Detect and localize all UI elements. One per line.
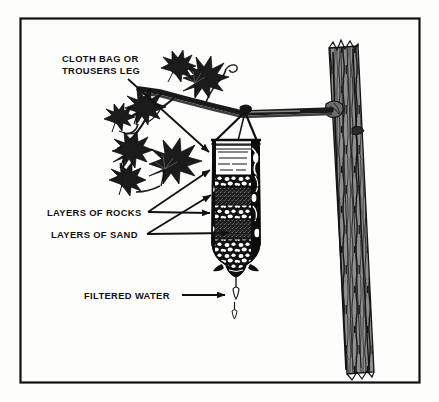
layers-of-sand-arrow-2 <box>147 233 229 234</box>
filtered-water-label: FILTERED WATER <box>84 290 170 301</box>
filter-bag <box>210 140 263 277</box>
water-filter-diagram: CLOTH BAG OR TROUSERS LEG LAYERS OF ROCK… <box>0 0 439 402</box>
cloth-bag-label-line1: CLOTH BAG OR <box>62 53 139 64</box>
clear-filtered-water-reservoir <box>216 141 252 175</box>
cloth-bag-label-line2: TROUSERS LEG <box>62 65 140 76</box>
layers-of-sand-label: LAYERS OF SAND <box>51 229 138 240</box>
layers-of-rocks-label: LAYERS OF ROCKS <box>47 207 142 218</box>
figure-root: CLOTH BAG OR TROUSERS LEG LAYERS OF ROCK… <box>0 0 439 402</box>
layers-of-rocks-arrow-2 <box>148 212 210 213</box>
